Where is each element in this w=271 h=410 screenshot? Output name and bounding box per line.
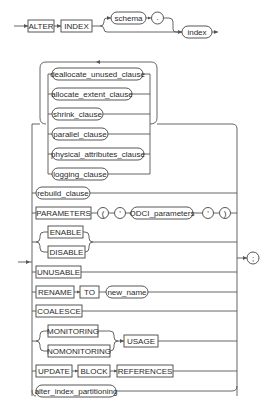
row-coalesce: COALESCE: [32, 305, 237, 317]
arrow-icon: [96, 60, 100, 64]
row-enable-disable: ENABLE DISABLE: [32, 226, 237, 258]
row-partitioning: alter_index_partitioning: [32, 385, 237, 397]
row-rename: RENAME TO new_name: [32, 286, 237, 298]
block-keyword: BLOCK: [80, 367, 108, 376]
new-name-label: new_name: [107, 288, 147, 297]
row-monitoring: MONITORING NOMONITORING USAGE: [32, 325, 237, 357]
update-keyword: UPDATE: [38, 367, 70, 376]
row-update-block-references: UPDATE BLOCK REFERENCES: [32, 365, 237, 377]
parameters-keyword: PARAMETERS: [36, 209, 91, 218]
arrow-icon: [120, 339, 124, 343]
logging-clause-label: logging_clause: [53, 170, 107, 179]
dot-label: .: [156, 13, 158, 22]
shrink-clause-label: shrink_clause: [53, 110, 102, 119]
alter-index-partitioning-label: alter_index_partitioning: [35, 387, 118, 396]
disable-keyword: DISABLE: [50, 248, 84, 257]
monitoring-keyword: MONITORING: [47, 327, 99, 336]
physical-attributes-clause-label: physical_attributes_clause: [51, 150, 145, 159]
nomonitoring-keyword: NOMONITORING: [47, 347, 111, 356]
index-keyword: INDEX: [64, 22, 89, 31]
rebuild-clause-label: rebuild_clause: [37, 189, 89, 198]
lparen-label: (: [102, 209, 105, 218]
allocate-extent-clause-label: allocate_extent_clause: [51, 90, 133, 99]
arrow-icon: [243, 256, 247, 260]
arrow-icon: [24, 24, 28, 28]
arrow-icon: [178, 30, 182, 34]
row-rebuild: rebuild_clause: [32, 187, 237, 199]
row-parameters: PARAMETERS ( ' ODCI_parameters ' ): [32, 207, 237, 219]
arrow-icon: [107, 16, 111, 20]
arrow-icon: [26, 260, 30, 264]
arrow-icon: [57, 24, 61, 28]
semicolon-label: ;: [252, 254, 254, 263]
head-line: ALTER INDEX schema . index: [14, 12, 218, 38]
parallel-clause-label: parallel_clause: [53, 130, 107, 139]
row-unusable: UNUSABLE: [32, 266, 237, 278]
arrow-icon: [214, 30, 218, 34]
to-keyword: TO: [84, 288, 95, 297]
coalesce-keyword: COALESCE: [37, 307, 81, 316]
rename-keyword: RENAME: [38, 288, 72, 297]
unusable-keyword: UNUSABLE: [37, 268, 80, 277]
deallocate-unused-clause-label: deallocate_unused_clause: [50, 70, 145, 79]
usage-keyword: USAGE: [127, 337, 155, 346]
references-keyword: REFERENCES: [118, 367, 173, 376]
alter-index-syntax-diagram: ALTER INDEX schema . index deallo: [0, 0, 271, 410]
alter-keyword: ALTER: [28, 22, 53, 31]
enable-keyword: ENABLE: [50, 228, 82, 237]
schema-label: schema: [114, 14, 143, 23]
rparen-label: ): [224, 209, 227, 218]
odci-parameters-label: ODCI_parameters: [130, 209, 195, 218]
index-label: index: [187, 28, 206, 37]
options-loop: deallocate_unused_clause allocate_extent…: [40, 60, 157, 180]
arrow-icon: [148, 17, 151, 20]
